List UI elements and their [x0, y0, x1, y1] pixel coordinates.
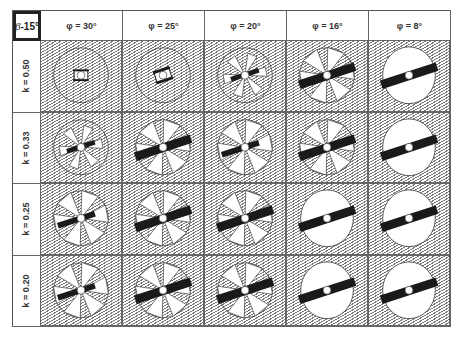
pattern-cell-star-bar	[123, 113, 205, 185]
row-header: k = 0.50	[13, 41, 41, 113]
corner-label: β-15°	[13, 11, 41, 41]
pattern-cell-star-full	[41, 256, 123, 328]
beta-value: -15°	[21, 21, 39, 32]
row-header-label: k = 0.20	[22, 274, 32, 307]
pattern-cell-full-bar	[287, 256, 369, 328]
pattern-cell-full-bar	[369, 184, 451, 256]
row-header: k = 0.33	[13, 113, 41, 185]
pattern-cell-small-core-bar	[123, 41, 205, 113]
column-header: φ = 8°	[369, 11, 451, 41]
column-header: φ = 20°	[205, 11, 287, 41]
pattern-cell-star-bar	[205, 256, 287, 328]
row-header: k = 0.25	[13, 184, 41, 256]
column-header: φ = 25°	[123, 11, 205, 41]
pattern-cell-full-bar	[369, 113, 451, 185]
row-header-label: k = 0.33	[22, 131, 32, 164]
column-header: φ = 16°	[287, 11, 369, 41]
pattern-grid: β-15° φ = 30° φ = 25° φ = 20° φ = 16° φ …	[12, 10, 451, 327]
column-header: φ = 30°	[41, 11, 123, 41]
row-header-label: k = 0.25	[22, 203, 32, 236]
pattern-cell-full-bar	[369, 41, 451, 113]
row-header: k = 0.20	[13, 256, 41, 328]
pattern-cell-star-bar	[287, 41, 369, 113]
pattern-cell-star-full	[41, 184, 123, 256]
pattern-cell-star-bar	[123, 256, 205, 328]
pattern-cell-star-bar	[287, 113, 369, 185]
pattern-cell-full-bar	[369, 256, 451, 328]
pattern-cell-full-bar	[287, 184, 369, 256]
pattern-cell-star-partial	[205, 41, 287, 113]
pattern-cell-star-bar	[205, 184, 287, 256]
pattern-cell-star-full	[205, 113, 287, 185]
pattern-cell-small-core	[41, 41, 123, 113]
pattern-cell-star-partial	[41, 113, 123, 185]
row-header-label: k = 0.50	[22, 60, 32, 93]
pattern-cell-star-bar	[123, 184, 205, 256]
